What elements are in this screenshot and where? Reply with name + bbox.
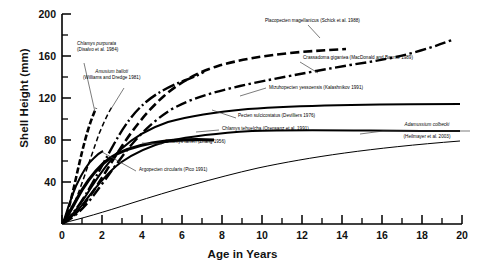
annotation-crassadoma-gigantea: Crassadoma gigantea (MacDonald and Bourn…	[303, 55, 413, 61]
y-tick-label-200: 200	[26, 8, 56, 20]
y-axis-title: Shell Height (mm)	[18, 28, 30, 168]
annotation-argopecten-circularis: Argopecten circularis (Pico 1991)	[139, 167, 207, 173]
x-tick-label-8: 8	[210, 229, 234, 241]
y-tick-label-40: 40	[26, 176, 56, 188]
leader-amusium-balloti	[111, 88, 124, 109]
annotation-adamussium-colbecki-name: Adamussium colbecki	[383, 122, 471, 128]
x-tick-label-12: 12	[290, 229, 314, 241]
annotation-adamussium-colbecki-citation: (Heilmayer et al. 2003)	[383, 134, 471, 140]
annotation-amusium-balloti: Amusium balloti (Williams and Dredge 198…	[83, 69, 140, 82]
x-tick-label-18: 18	[410, 229, 434, 241]
shell-growth-chart-figure: 200 160 120 80 40 0 2 4 6 8 10 12 14 16 …	[0, 0, 485, 269]
x-axis-title: Age in Years	[0, 248, 485, 260]
x-tick-label-6: 6	[170, 229, 194, 241]
y-major-ticks	[62, 14, 71, 182]
y-tick-label-80: 80	[26, 134, 56, 146]
annotation-leader-lines	[84, 25, 470, 171]
annotation-chlamys-purpurata: Chlamys purpurata (Disalvo et al. 1984)	[77, 41, 118, 54]
annotation-amusium-balloti-citation: (Williams and Dredge 1981)	[83, 75, 140, 81]
x-tick-label-14: 14	[330, 229, 354, 241]
annotation-placopecten-magellanicus: Placopecten magellanicus (Schick et al. …	[265, 18, 360, 24]
annotation-mizuhopecten-yessoensis: Mizuhopecten yessoensis (Kalashnikov 199…	[269, 85, 363, 91]
annotation-chlamys-tehuelcha: Chlamys tehuelcha (Orensanz et al. 1991)	[222, 126, 309, 132]
y-tick-label-120: 120	[26, 92, 56, 104]
y-minor-ticks	[62, 35, 68, 203]
leader-chlamys-tehuelcha	[196, 130, 219, 132]
x-tick-label-2: 2	[90, 229, 114, 241]
curve-adamussium-colbecki	[63, 141, 460, 223]
leader-placopecten	[308, 25, 320, 38]
annotation-pecten-sulcicostatus: Pecten sulcicostatus (Devilliers 1976)	[238, 113, 315, 119]
annotation-adamussium-colbecki: Adamussium colbecki	[383, 122, 471, 128]
leader-mizuhopecten	[240, 88, 266, 96]
x-tick-label-16: 16	[370, 229, 394, 241]
y-tick-label-160: 160	[26, 50, 56, 62]
annotation-chlamys-purpurata-citation: (Disalvo et al. 1984)	[77, 47, 118, 53]
x-tick-label-10: 10	[250, 229, 274, 241]
x-tick-label-0: 0	[50, 229, 74, 241]
x-tick-label-4: 4	[130, 229, 154, 241]
x-tick-label-20: 20	[450, 229, 474, 241]
annotation-chlamys-farreri: Chlamys farreri (Zhang 1956)	[165, 139, 226, 145]
